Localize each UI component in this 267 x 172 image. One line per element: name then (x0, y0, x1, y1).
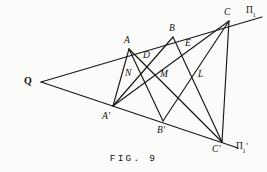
point-label-m: M (160, 70, 168, 80)
point-label-d: D (143, 51, 150, 61)
point-label-a: A (124, 36, 130, 46)
point-label-l: L (198, 70, 203, 80)
point-label-bp: B' (157, 126, 165, 136)
geometry-figure: QABCA'B'C'DENMLΠ1Π1' FIG. 9 (0, 0, 267, 172)
segment-q-lower-ray (41, 82, 238, 148)
segment-a-to-cprime (129, 49, 222, 142)
plane-label-pi1-prime: Π1' (236, 142, 248, 153)
point-label-c: C (224, 8, 230, 18)
point-label-e: E (185, 39, 191, 49)
segment-c-to-cprime (222, 21, 229, 142)
point-label-ap: A' (102, 112, 110, 122)
segment-c-to-aprime (113, 21, 229, 106)
segments-group (41, 17, 262, 148)
segment-b-to-cprime (173, 37, 222, 142)
point-label-n: N (125, 69, 131, 79)
point-label-b: B (169, 24, 175, 34)
plane-label-pi1: Π1 (246, 6, 256, 17)
point-label-q: Q (24, 76, 32, 86)
figure-caption: FIG. 9 (0, 153, 267, 164)
diagram-canvas (0, 0, 267, 172)
